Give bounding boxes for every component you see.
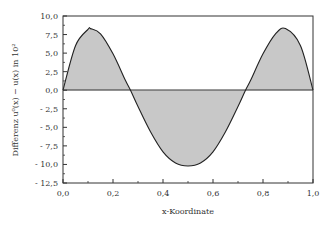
y-axis-title: Differenz u⁰(x) − u(x) in 10² (11, 44, 20, 157)
plot-fill (63, 28, 313, 166)
y-tick-label: 10,0 (40, 12, 58, 21)
chart: 10,07,55,02,50,0- 2,5- 5,0- 7,5- 10,0- 1… (0, 0, 327, 227)
x-tick-label: 0,4 (157, 189, 170, 198)
x-axis: 0,00,20,40,60,81,0 (57, 179, 320, 198)
x-axis-title: x-Koordinate (162, 207, 214, 216)
y-tick-label: - 5,0 (40, 123, 58, 132)
y-tick-label: - 2,5 (40, 105, 58, 114)
x-tick-label: 0,6 (207, 189, 220, 198)
y-tick-label: - 7,5 (40, 142, 58, 151)
y-tick-label: 2,5 (45, 68, 58, 77)
x-tick-label: 0,0 (57, 189, 70, 198)
x-tick-label: 1,0 (307, 189, 320, 198)
y-tick-label: - 10,0 (35, 160, 58, 169)
area-fill (63, 28, 313, 166)
y-tick-label: 5,0 (45, 49, 58, 58)
y-tick-label: 7,5 (45, 31, 58, 40)
y-tick-label: - 12,5 (35, 179, 58, 188)
x-tick-label: 0,8 (257, 189, 270, 198)
y-tick-label: 0,0 (45, 86, 58, 95)
x-tick-label: 0,2 (107, 189, 120, 198)
y-axis: 10,07,55,02,50,0- 2,5- 5,0- 7,5- 10,0- 1… (35, 12, 67, 188)
